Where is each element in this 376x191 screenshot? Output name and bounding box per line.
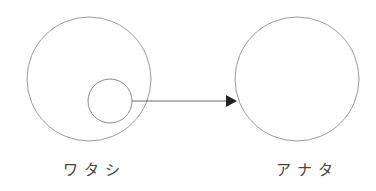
self-label: ワタシ [63, 158, 126, 179]
other-circle [235, 17, 359, 141]
inner-circle [88, 79, 132, 123]
other-label: アナタ [276, 158, 339, 179]
arrowhead-icon [226, 95, 237, 107]
self-circle [27, 17, 151, 141]
